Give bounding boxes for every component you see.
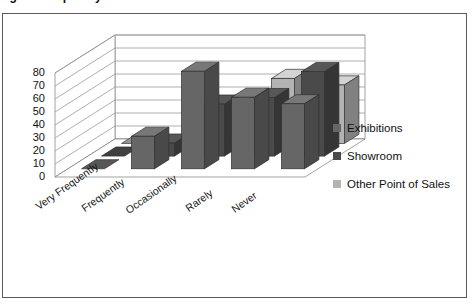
- y-axis-tick-label: 10: [19, 158, 45, 169]
- chart-bar: [132, 127, 169, 169]
- chart-frame: 80706050403020100Very FrequentlyFrequent…: [2, 13, 467, 298]
- chart-legend: ExhibitionsShowroomOther Point of Sales: [333, 122, 465, 206]
- y-axis-tick-label: 40: [19, 119, 45, 130]
- page-title-text: ng the frequency: [2, 0, 102, 3]
- legend-swatch-icon: [333, 124, 341, 132]
- legend-item[interactable]: Exhibitions: [333, 122, 465, 134]
- legend-item-label: Showroom: [347, 150, 402, 162]
- chart-bar: [232, 88, 269, 169]
- y-axis-tick-label: 50: [19, 106, 45, 117]
- legend-item-label: Other Point of Sales: [347, 178, 450, 190]
- y-axis-tick-label: 20: [19, 145, 45, 156]
- legend-swatch-icon: [333, 180, 341, 188]
- y-axis-tick-label: 60: [19, 93, 45, 104]
- legend-item[interactable]: Other Point of Sales: [333, 178, 465, 190]
- page-title-clipped: ng the frequency: [0, 0, 472, 12]
- y-axis-tick-label: 80: [19, 67, 45, 78]
- legend-swatch-icon: [333, 152, 341, 160]
- legend-item[interactable]: Showroom: [333, 150, 465, 162]
- y-axis-tick-label: 30: [19, 132, 45, 143]
- y-axis-tick-label: 0: [19, 171, 45, 182]
- y-axis-tick-label: 70: [19, 80, 45, 91]
- legend-item-label: Exhibitions: [347, 122, 403, 134]
- chart-bar: [282, 95, 319, 169]
- chart-bar: [182, 62, 219, 169]
- chart-screenshot: ng the frequency 80706050403020100Very F…: [0, 0, 472, 304]
